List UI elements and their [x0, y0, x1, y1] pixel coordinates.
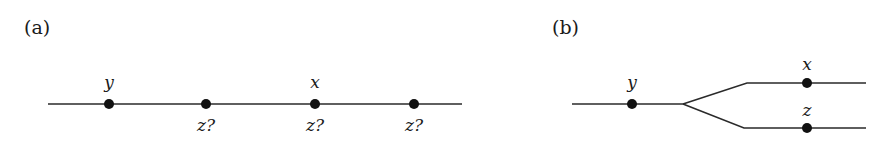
panel-b: (b) y x z	[552, 16, 866, 133]
panel-b-point-z	[802, 123, 812, 133]
diagram-canvas: (a) y x z? z? z? (b) y x z	[0, 0, 893, 142]
panel-a-point-2	[201, 99, 211, 109]
panel-b-label-z: z	[802, 100, 813, 120]
panel-a-point-1	[104, 99, 114, 109]
panel-b-upper-branch	[683, 83, 866, 104]
panel-a-point-3	[310, 99, 320, 109]
panel-a-label-z-1: z?	[196, 115, 216, 135]
panel-a: (a) y x z? z? z?	[24, 16, 462, 135]
panel-b-label: (b)	[552, 16, 579, 38]
panel-a-label-z-3: z?	[404, 115, 424, 135]
panel-a-label-z-2: z?	[305, 115, 325, 135]
panel-b-lower-branch	[683, 104, 866, 128]
panel-a-point-4	[409, 99, 419, 109]
panel-a-label-y: y	[103, 72, 114, 92]
panel-a-label-x: x	[310, 72, 320, 92]
panel-b-label-x: x	[802, 54, 812, 74]
panel-b-label-y: y	[626, 72, 637, 92]
panel-b-point-x	[802, 78, 812, 88]
panel-b-point-y	[627, 99, 637, 109]
panel-a-label: (a)	[24, 16, 50, 38]
